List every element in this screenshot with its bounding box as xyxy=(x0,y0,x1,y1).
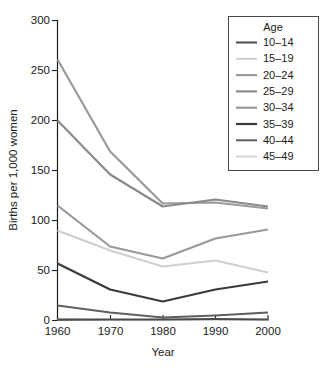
x-tick-label-1980: 1980 xyxy=(150,325,176,337)
legend-label-40-44: 40–44 xyxy=(263,134,294,146)
legend-label-25-29: 25–29 xyxy=(263,85,294,97)
legend-label-45-49: 45–49 xyxy=(263,150,294,162)
series-line-15-19 xyxy=(58,231,269,273)
legend-label-20-24: 20–24 xyxy=(263,69,294,81)
y-tick-label-250: 250 xyxy=(31,64,50,76)
legend-label-30-34: 30–34 xyxy=(263,101,294,113)
series-line-35-39 xyxy=(58,264,269,302)
y-tick-label-300: 300 xyxy=(31,14,50,26)
legend-label-35-39: 35–39 xyxy=(263,118,294,130)
y-tick-label-150: 150 xyxy=(31,164,50,176)
legend-label-15-19: 15–19 xyxy=(263,52,294,64)
chart-legend: Age 10–1415–1920–2425–2930–3435–3940–444… xyxy=(229,17,319,171)
chart-canvas: Births per 1,000 women 300 250 200 150 1… xyxy=(0,0,332,379)
x-tick-label-2000: 2000 xyxy=(255,325,281,337)
y-tick-label-200: 200 xyxy=(31,114,50,126)
series-line-30-34 xyxy=(58,206,269,259)
y-tick-label-100: 100 xyxy=(31,214,50,226)
series-line-10-14 xyxy=(58,319,269,320)
x-tick-label-1960: 1960 xyxy=(45,325,71,337)
x-tick-label-1970: 1970 xyxy=(98,325,124,337)
line-chart: Births per 1,000 women 300 250 200 150 1… xyxy=(0,0,332,379)
y-tick-label-50: 50 xyxy=(37,264,50,276)
y-axis-title: Births per 1,000 women xyxy=(7,109,19,230)
x-axis-title: Year xyxy=(151,346,174,358)
x-tick-label-1990: 1990 xyxy=(203,325,229,337)
legend-label-10-14: 10–14 xyxy=(263,36,294,48)
legend-title: Age xyxy=(263,21,283,33)
